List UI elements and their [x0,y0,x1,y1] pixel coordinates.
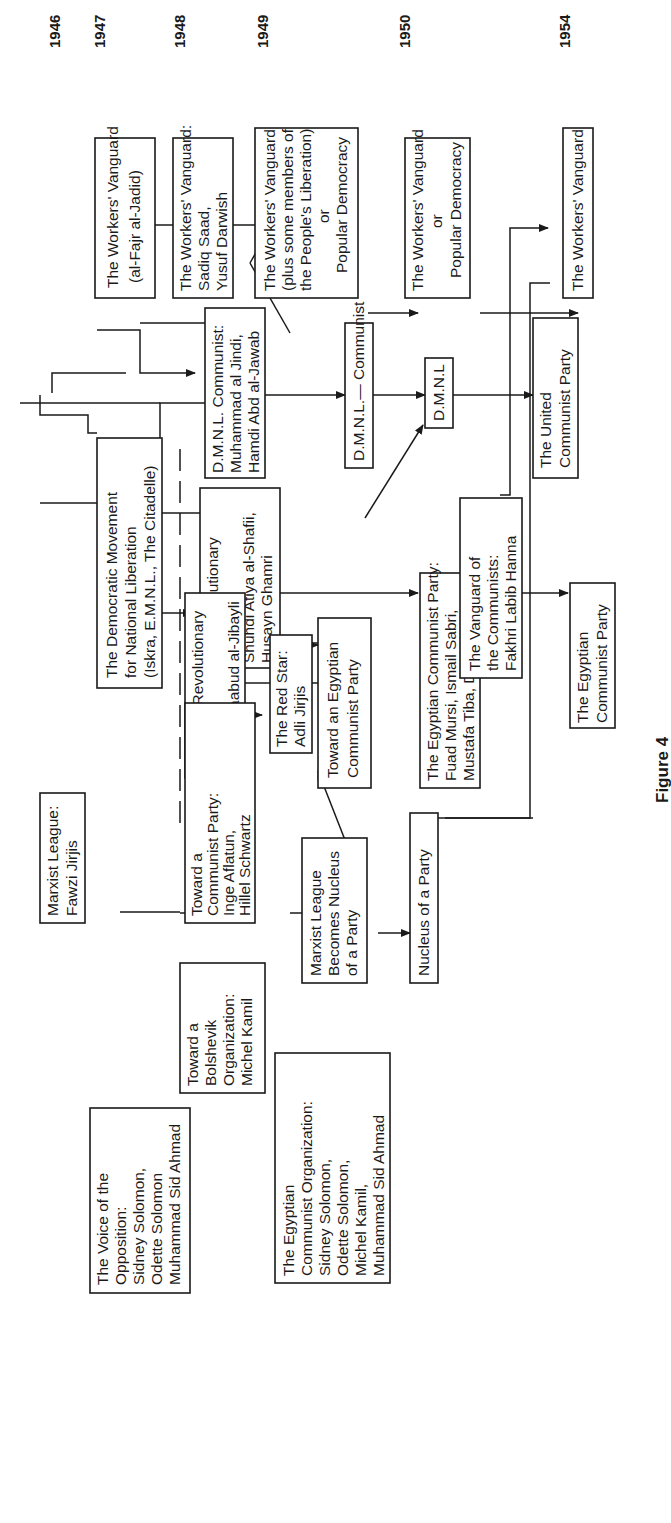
svg-text:Communist Party: Communist Party [556,349,573,468]
svg-text:or: or [315,209,332,223]
node-wv-1954: The Workers' Vanguard [563,128,593,298]
svg-text:Muhammad Sid Ahmad: Muhammad Sid Ahmad [166,1124,183,1285]
svg-text:Sidney Solomon,: Sidney Solomon, [316,1159,333,1276]
svg-text:D.M.N.L.— Communist: D.M.N.L.— Communist [350,301,367,461]
svg-text:Odette Solomon,: Odette Solomon, [334,1160,351,1276]
svg-text:for National Liberation: for National Liberation [122,526,139,678]
node-voice-opposition: The Voice of the Opposition: Sidney Solo… [90,1108,190,1293]
svg-text:of a Party: of a Party [343,909,360,976]
node-wv-1949: The Workers' Vanguard (plus some members… [255,128,358,298]
node-dmnl-main: The Democratic Movement for National Lib… [97,438,162,688]
svg-text:Muhammad Sid Ahmad: Muhammad Sid Ahmad [370,1115,387,1276]
svg-text:The Workers' Vanguard:: The Workers' Vanguard: [177,125,194,291]
node-ml-nucleus: Marxist League Becomes Nucleus of a Part… [302,838,367,983]
svg-text:Toward a: Toward a [188,853,205,916]
svg-text:Muhammad al Jindi,: Muhammad al Jindi, [227,334,244,473]
svg-text:The Workers' Vanguard: The Workers' Vanguard [409,129,426,291]
svg-text:Marxist League:: Marxist League: [44,806,61,916]
year-label: 1950 [396,15,413,48]
year-label: 1946 [46,15,63,48]
year-label: 1948 [171,15,188,48]
year-label: 1954 [556,14,573,48]
organization-flow-diagram: 1946 1947 1948 1949 1950 1954 [0,0,671,1523]
svg-text:The Workers' Vanguard: The Workers' Vanguard [261,129,278,291]
svg-text:(plus some members of: (plus some members of [279,128,296,291]
node-toward-ecp: Toward an Egyptian Communist Party [318,618,371,788]
svg-text:D.M.N.L. Communist:: D.M.N.L. Communist: [209,325,226,473]
svg-text:Toward an Egyptian: Toward an Egyptian [324,642,341,778]
svg-text:The Democratic Movement: The Democratic Movement [103,491,120,678]
svg-text:The Egyptian Communist Party:: The Egyptian Communist Party: [424,562,441,781]
node-bolshevik: Toward a Bolshevik Organization: Michel … [180,963,265,1093]
year-label: 1949 [254,15,271,48]
node-wv-1948: The Workers' Vanguard: Sadiq Saad, Yusuf… [173,125,233,298]
svg-text:Opposition:: Opposition: [112,1207,129,1285]
year-axis: 1946 1947 1948 1949 1950 1954 [46,14,573,48]
svg-text:The Workers' Vanguard: The Workers' Vanguard [569,129,586,291]
svg-text:Michel Kamil,: Michel Kamil, [352,1184,369,1276]
node-red-star: The Red Star: Adli Jirjis [270,635,312,753]
svg-text:Communist Party:: Communist Party: [204,793,221,916]
svg-text:Organization:: Organization: [220,994,237,1086]
node-vanguard-communists: The Vanguard of the Communists: Fakhri L… [460,498,522,678]
node-nucleus: Nucleus of a Party [410,813,438,983]
svg-text:The Egyptian: The Egyptian [280,1185,297,1276]
svg-text:The Voice of the: The Voice of the [94,1173,111,1285]
svg-text:or: or [428,214,445,228]
node-united-cp: The United Communist Party [533,318,578,478]
svg-text:Popular Democracy: Popular Democracy [447,142,464,278]
svg-text:Sadiq Saad,: Sadiq Saad, [195,207,212,291]
svg-text:Communist Party: Communist Party [344,659,361,778]
svg-text:Adli Jirjis: Adli Jirjis [291,686,308,747]
svg-text:The United: The United [537,392,554,468]
svg-text:Bolshevik: Bolshevik [202,1019,219,1086]
svg-text:The Vanguard of: The Vanguard of [466,556,483,671]
node-wv-1950: The Workers' Vanguard or Popular Democra… [405,129,470,298]
figure-caption: Figure 4 [653,736,671,803]
svg-text:(al-Fajr al-Jadid): (al-Fajr al-Jadid) [126,170,143,283]
node-dmnl-communist: D.M.N.L. Communist: Muhammad al Jindi, H… [205,308,265,478]
svg-text:Hamdi Abd al-Jawab: Hamdi Abd al-Jawab [245,331,262,473]
svg-text:Sidney Solomon,: Sidney Solomon, [130,1168,147,1285]
svg-text:Marxist League: Marxist League [307,870,324,976]
svg-text:Fawzi Jirjis: Fawzi Jirjis [63,840,80,916]
year-label: 1947 [91,15,108,48]
node-eco: The Egyptian Communist Organization: Sid… [275,1053,390,1283]
svg-text:D.M.N.L: D.M.N.L [430,364,447,421]
svg-text:(Iskra, E.M.N.L., The Citadell: (Iskra, E.M.N.L., The Citadelle) [141,466,158,678]
svg-text:Hillel Schwartz: Hillel Schwartz [236,814,253,916]
svg-text:Odette Solomon: Odette Solomon [148,1173,165,1285]
svg-text:the People's Liberation): the People's Liberation) [297,129,314,291]
svg-text:Becomes Nucleus: Becomes Nucleus [325,851,342,976]
node-dmnl-small: D.M.N.L [425,358,453,428]
svg-text:Popular Democracy: Popular Democracy [333,137,350,273]
svg-text:Toward a: Toward a [184,1023,201,1086]
svg-text:Inge Aflatun,: Inge Aflatun, [220,830,237,916]
svg-text:The Egyptian: The Egyptian [574,632,591,723]
svg-text:Communist Party: Communist Party [593,604,610,723]
svg-text:Nucleus of a Party: Nucleus of a Party [415,849,432,976]
svg-text:Fakhri Labib Hanna: Fakhri Labib Hanna [502,535,519,671]
svg-text:the Communists:: the Communists: [484,555,501,671]
svg-text:The Red Star:: The Red Star: [273,651,290,748]
svg-text:Communist Organization:: Communist Organization: [298,1101,315,1276]
svg-text:Fuad Mursi, Ismail Sabri,: Fuad Mursi, Ismail Sabri, [442,610,459,781]
svg-text:Michel Kamil: Michel Kamil [238,998,255,1086]
svg-text:Yusuf Darwish: Yusuf Darwish [213,192,230,291]
svg-text:The Workers' Vanguard: The Workers' Vanguard [104,126,121,288]
node-wv-1947: The Workers' Vanguard (al-Fajr al-Jadid) [95,126,155,298]
node-dmnl-communist-2: D.M.N.L.— Communist [345,301,373,468]
node-marxist-league: Marxist League: Fawzi Jirjis [40,793,85,923]
node-toward-cp: Toward a Communist Party: Inge Aflatun, … [185,703,255,923]
diagram-stage: 1946 1947 1948 1949 1950 1954 [0,0,671,1523]
node-ecp: The Egyptian Communist Party [570,583,615,728]
